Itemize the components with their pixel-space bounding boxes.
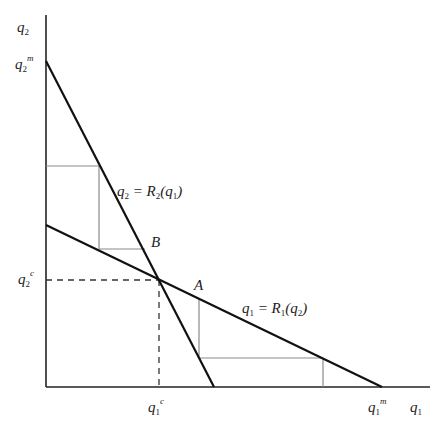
r1-label: q1 = R1(q2) <box>242 300 307 318</box>
q1m-label: q1m <box>368 396 387 417</box>
q2c-label: q2c <box>18 268 34 289</box>
q2m-label: q2m <box>15 53 34 74</box>
x-axis-label: q1 <box>410 399 422 417</box>
y-axis-label: q2 <box>17 19 29 37</box>
point-a-label: A <box>193 277 204 293</box>
r2-label: q2 = R2(q1) <box>117 183 182 201</box>
q1c-label: q1c <box>148 396 164 417</box>
reaction-function-r1 <box>46 225 382 387</box>
cournot-diagram: q2 q1 q2m q2c q1c q1m q2 = R2(q1) q1 = R… <box>0 0 446 430</box>
point-b-label: B <box>151 234 160 250</box>
adjustment-path-b <box>46 166 145 249</box>
reaction-function-r2 <box>46 61 214 387</box>
